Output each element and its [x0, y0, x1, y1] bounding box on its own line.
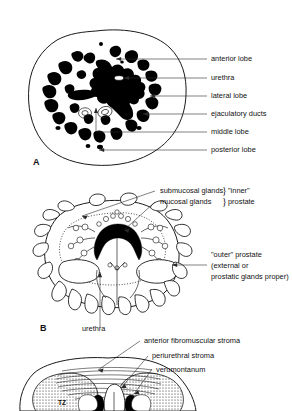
- panel-b-inner-lobule-left: [59, 260, 100, 284]
- label-submucosal-glands: submucosal glands: [160, 186, 224, 195]
- label-anterior-fibromuscular-stroma: anterior fibromuscular stroma: [144, 336, 241, 345]
- label-posterior-lobe: posterior lobe: [211, 145, 256, 154]
- panel-letter-b: B: [40, 323, 47, 333]
- label-periurethral-stroma: periurethral stroma: [152, 351, 215, 360]
- label-panel-b-urethra: urethra: [82, 324, 106, 333]
- label-verumontanum: verumontanum: [156, 365, 205, 374]
- label-transition-zone: TZ: [58, 399, 66, 406]
- label-mucosal-glands: mucosal glands: [160, 197, 212, 206]
- prostate-anatomy-figure: anterior lobe urethra lateral lobe ejacu…: [0, 0, 292, 411]
- label-urethra: urethra: [211, 73, 235, 82]
- inner-prostate-brace-top: }: [222, 185, 227, 196]
- label-inner-prostate-line1: "inner": [228, 186, 250, 195]
- label-middle-lobe: middle lobe: [211, 127, 249, 136]
- label-inner-prostate-line2: prostate: [228, 197, 255, 206]
- label-outer-prostate-line3: prostatic glands proper): [211, 272, 289, 281]
- panel-a-urethra-lumen: [114, 76, 123, 81]
- panel-letter-a: A: [33, 157, 40, 167]
- label-lateral-lobe: lateral lobe: [211, 91, 247, 100]
- label-outer-prostate-line2: (external or: [211, 261, 249, 270]
- panel-b-inner-lobule-right: [137, 260, 178, 284]
- label-anterior-lobe: anterior lobe: [211, 54, 252, 63]
- label-ejaculatory-ducts: ejaculatory ducts: [211, 109, 267, 118]
- inner-prostate-brace-bottom: }: [222, 196, 227, 207]
- label-outer-prostate-line1: "outer" prostate: [211, 250, 262, 259]
